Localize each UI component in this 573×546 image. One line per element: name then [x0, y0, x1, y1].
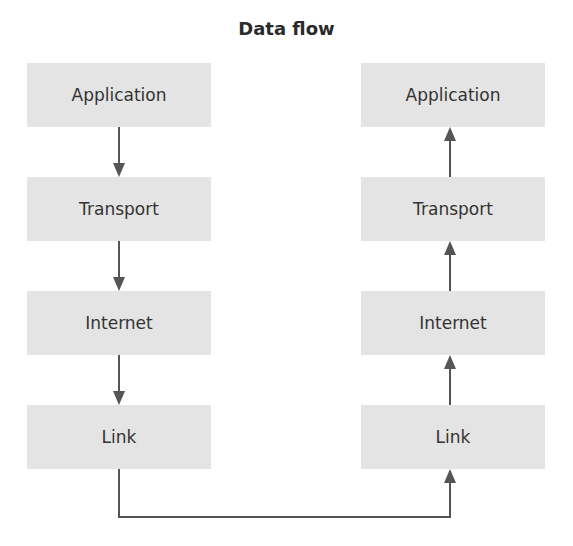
arrow-up-icon [444, 355, 456, 369]
arrow-down-icon [113, 277, 125, 291]
arrow-down-icon [113, 391, 125, 405]
arrow-up-icon [444, 127, 456, 141]
connector-arrows [0, 0, 573, 546]
arrow-up-icon [444, 241, 456, 255]
arrow-up-icon [444, 469, 456, 483]
arrow-down-icon [113, 163, 125, 177]
